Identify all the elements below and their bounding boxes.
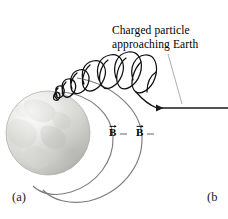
- vector-arrow-icon: [136, 124, 144, 128]
- panel-label-a: (a): [12, 190, 26, 205]
- panel-label-b: (b: [207, 190, 217, 205]
- caption-line-2: approaching Earth: [112, 38, 224, 52]
- vector-arrow-icon: [109, 124, 117, 128]
- earth-sphere: [6, 91, 90, 175]
- b-field-vector-label-1: B: [109, 127, 116, 138]
- b-symbol-2: B: [136, 126, 143, 138]
- b-field-vector-label-2: B: [136, 127, 143, 138]
- physics-figure: Charged particle approaching Earth B B (…: [0, 0, 228, 219]
- b-symbol-1: B: [109, 126, 116, 138]
- caption-line-1: Charged particle: [112, 24, 224, 38]
- caption-charged-particle: Charged particle approaching Earth: [112, 24, 224, 51]
- caption-leader-line: [168, 54, 182, 104]
